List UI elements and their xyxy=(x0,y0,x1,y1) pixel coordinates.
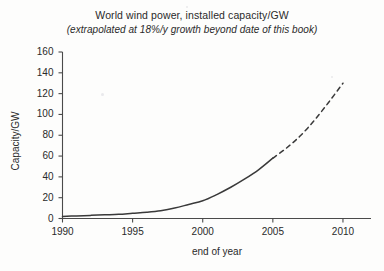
y-tick-label: 20 xyxy=(20,193,54,203)
y-tick-label: 120 xyxy=(20,89,54,99)
scan-speck xyxy=(331,76,333,78)
scan-speck xyxy=(186,6,188,8)
x-tick-label: 1990 xyxy=(40,227,86,237)
chart-figure: World wind power, installed capacity/GW … xyxy=(0,0,384,271)
y-tick-label: 0 xyxy=(20,214,54,224)
x-tick-label: 2010 xyxy=(320,227,366,237)
axis-lines xyxy=(62,52,371,219)
x-tick-label: 2000 xyxy=(180,227,226,237)
y-tick-label: 140 xyxy=(20,68,54,78)
x-tick-marks xyxy=(63,219,343,223)
y-tick-label: 60 xyxy=(20,151,54,161)
y-tick-label: 80 xyxy=(20,130,54,140)
x-tick-label: 2005 xyxy=(250,227,296,237)
series-line-extrapolated xyxy=(273,83,343,158)
y-tick-marks xyxy=(59,52,63,219)
y-tick-label: 100 xyxy=(20,109,54,119)
series-line-historical xyxy=(63,158,273,216)
scan-speck xyxy=(101,93,104,96)
y-tick-label: 40 xyxy=(20,172,54,182)
y-tick-label: 160 xyxy=(20,47,54,57)
x-tick-label: 1995 xyxy=(110,227,156,237)
